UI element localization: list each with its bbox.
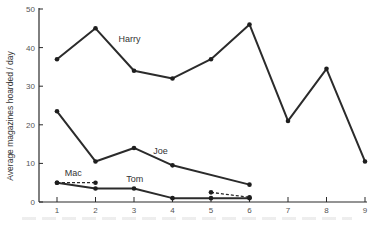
series-label-harry: Harry xyxy=(119,34,141,44)
y-axis-label: Average magazines hoarded / day xyxy=(5,51,15,181)
series-line-mac xyxy=(211,192,250,197)
x-tick-label: 7 xyxy=(286,206,291,215)
x-tick-label: 1 xyxy=(55,206,60,215)
data-point-harry xyxy=(286,119,291,124)
x-tick-label: 9 xyxy=(363,206,368,215)
y-tick-label: 10 xyxy=(26,159,35,168)
x-tick-label: 4 xyxy=(170,206,175,215)
y-tick-label: 40 xyxy=(26,44,35,53)
data-point-harry xyxy=(93,26,98,31)
data-point-joe xyxy=(132,146,137,151)
data-point-tom xyxy=(170,196,175,201)
figure-caption-illegible xyxy=(22,217,352,220)
data-point-mac xyxy=(209,190,214,195)
data-point-joe xyxy=(170,163,175,168)
series-label-joe: Joe xyxy=(153,146,168,156)
series-labels: HarryJoeTomMac xyxy=(65,34,168,184)
y-tick-label: 30 xyxy=(26,82,35,91)
data-point-joe xyxy=(55,109,60,114)
series-label-tom: Tom xyxy=(126,174,143,184)
x-tick-label: 8 xyxy=(324,206,329,215)
data-point-mac xyxy=(93,180,98,185)
data-point-mac xyxy=(247,195,252,200)
data-point-joe xyxy=(247,182,252,187)
data-point-harry xyxy=(363,159,368,164)
data-point-harry xyxy=(324,67,329,72)
line-chart: 01020304050123456789 HarryJoeTomMac Aver… xyxy=(0,0,378,225)
y-tick-label: 0 xyxy=(31,198,36,207)
data-point-harry xyxy=(247,22,252,27)
data-point-harry xyxy=(209,57,214,62)
data-point-tom xyxy=(132,186,137,191)
data-point-tom xyxy=(209,196,214,201)
data-point-harry xyxy=(170,76,175,81)
y-tick-label: 20 xyxy=(26,121,35,130)
data-point-harry xyxy=(132,68,137,73)
x-tick-label: 2 xyxy=(93,206,98,215)
x-tick-label: 6 xyxy=(247,206,252,215)
data-point-joe xyxy=(93,159,98,164)
series-label-mac: Mac xyxy=(65,168,83,178)
series-line-tom xyxy=(57,183,250,198)
chart-axes: 01020304050123456789 xyxy=(26,5,368,215)
chart-series xyxy=(55,22,368,200)
x-tick-label: 3 xyxy=(132,206,137,215)
data-point-tom xyxy=(93,186,98,191)
y-tick-label: 50 xyxy=(26,5,35,14)
data-point-harry xyxy=(55,57,60,62)
data-point-mac xyxy=(55,180,60,185)
x-tick-label: 5 xyxy=(209,206,214,215)
series-line-harry xyxy=(57,24,365,161)
